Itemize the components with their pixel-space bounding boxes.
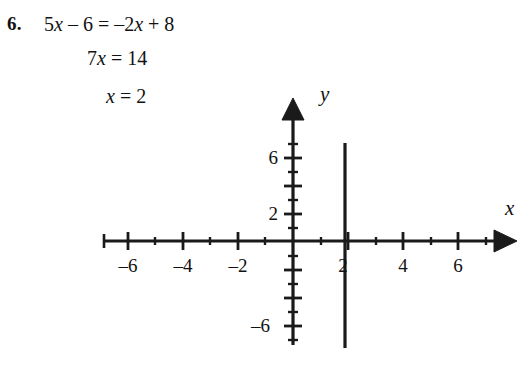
equation-line-1-coef: 5 bbox=[44, 13, 54, 35]
equation-line-2-value: 14 bbox=[127, 47, 147, 69]
x-tick-label-6: 6 bbox=[438, 256, 478, 275]
x-tick-label--6: –6 bbox=[108, 256, 148, 275]
equation-line-1-variable: x bbox=[54, 13, 63, 35]
graph-svg bbox=[90, 80, 532, 378]
y-tick-label--6: –6 bbox=[230, 316, 270, 335]
y-tick-label-6: 6 bbox=[238, 148, 278, 167]
equation-line-1-rhs-constant: 8 bbox=[164, 13, 174, 35]
coordinate-graph: y x –6 –4 –2 2 4 6 6 2 –6 bbox=[90, 80, 532, 378]
equation-line-1-plus: + bbox=[143, 13, 164, 35]
equation-line-2-coef: 7 bbox=[87, 47, 97, 69]
equation-line-2-equals: = bbox=[106, 47, 127, 69]
problem-number: 6. bbox=[7, 13, 22, 35]
x-axis-arrowhead bbox=[494, 230, 517, 252]
x-tick-label-4: 4 bbox=[383, 256, 423, 275]
y-axis-arrowhead bbox=[282, 98, 304, 120]
equation-line-1-equals: = bbox=[93, 13, 114, 35]
equation-line-1-minus: – bbox=[63, 13, 83, 35]
equation-line-2: 7x = 14 bbox=[87, 48, 147, 68]
x-tick-label-2: 2 bbox=[323, 256, 363, 275]
equation-line-2-variable: x bbox=[97, 47, 106, 69]
x-axis-variable-label: x bbox=[505, 198, 514, 219]
x-tick-label--2: –2 bbox=[218, 256, 258, 275]
equation-line-1: 5x – 6 = –2x + 8 bbox=[44, 14, 174, 34]
y-tick-label-2: 2 bbox=[238, 204, 278, 223]
worksheet-page: 6. 5x – 6 = –2x + 8 7x = 14 x = 2 bbox=[0, 0, 532, 378]
equation-line-1-rhs-sign: – bbox=[114, 13, 124, 35]
y-axis-variable-label: y bbox=[320, 84, 329, 105]
equation-line-1-rhs-coef: 2 bbox=[124, 13, 134, 35]
equation-line-1-rhs-variable: x bbox=[134, 13, 143, 35]
equation-line-1-constant: 6 bbox=[83, 13, 93, 35]
graph-axes bbox=[103, 98, 517, 348]
x-tick-label--4: –4 bbox=[163, 256, 203, 275]
